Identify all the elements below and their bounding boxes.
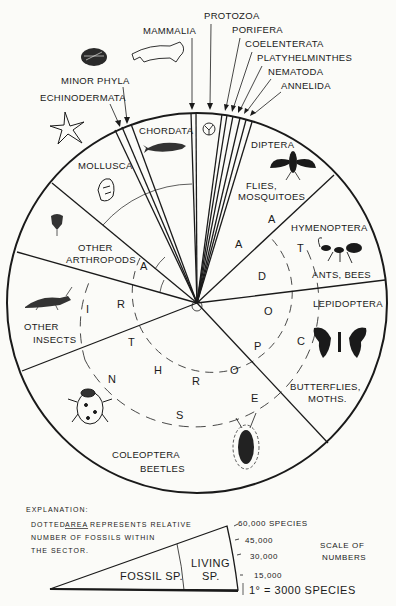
water-beetle-icon: [233, 413, 259, 469]
label-lepidoptera: MOTHS.: [308, 393, 347, 404]
label-platyhelminthes: PLATYHELMINTHES: [257, 52, 352, 63]
label-porifera: PORIFERA: [232, 24, 283, 35]
ring-letter: S: [176, 409, 183, 421]
fish-icon: [143, 143, 186, 153]
ring-letter: H: [154, 364, 162, 376]
cat-icon: [132, 42, 184, 62]
brachiopod-shell-icon: [81, 48, 107, 66]
ring-letter: N: [108, 373, 116, 385]
ring-letter: R: [117, 298, 125, 310]
scale-title: NUMBERS: [322, 553, 366, 562]
scale-fossil-label: FOSSIL SP.: [120, 570, 183, 582]
ring-letter: A: [235, 238, 243, 250]
scale-tick: 15,000: [254, 571, 282, 580]
insecta-ring: [80, 246, 319, 427]
ring-letter: R: [192, 375, 200, 387]
explanation-title: EXPLANATION:: [26, 506, 88, 513]
sector-labels: CHORDATA MOLLUSCA OTHER ARTHROPODS OTHER…: [24, 125, 383, 474]
label-mammalia: MAMMALIA: [143, 25, 196, 36]
ring-arthropoda-letters: A R T H R O P O D A: [117, 238, 273, 387]
label-chordata: CHORDATA: [139, 125, 194, 136]
ant-icon: [318, 238, 362, 263]
ring-letter: E: [251, 392, 258, 404]
label-coelenterata: COELENTERATA: [245, 38, 324, 49]
scale-title: SCALE OF: [320, 541, 364, 550]
label-minor-phyla: MINOR PHYLA: [61, 75, 130, 86]
ring-letter: T: [297, 242, 304, 254]
label-hymenoptera: ANTS, BEES: [312, 269, 371, 280]
scale-living-label: SP.: [202, 570, 220, 582]
snail-shell-icon: [98, 179, 114, 201]
label-echinodermata: ECHINODERMATA: [40, 92, 126, 103]
grasshopper-icon: [25, 287, 72, 310]
scale-unit: 1° = 3000 SPECIES: [249, 584, 356, 596]
trilobite-icon: [51, 214, 63, 236]
ring-letter: T: [128, 336, 135, 348]
explanation-text: THE SECTOR.: [31, 547, 89, 554]
ladybug-icon: [68, 389, 112, 424]
ring-letter: I: [86, 303, 89, 315]
fossil-arcs: [103, 184, 192, 292]
ring-letter: O: [264, 305, 273, 317]
label-other-arthropods: OTHER: [78, 242, 113, 253]
label-lepidoptera: LEPIDOPTERA: [313, 298, 383, 309]
label-other-arthropods: ARTHROPODS: [66, 254, 136, 265]
label-diptera: MOSQUITOES: [238, 191, 305, 202]
explanation-text: DOTTED: [31, 521, 66, 528]
label-coleoptera: COLEOPTERA: [112, 449, 180, 460]
scale-tick: 60,000 SPECIES: [238, 519, 308, 528]
ring-letter: C: [297, 335, 305, 347]
arthropoda-ring: [132, 235, 292, 372]
ring-letter: D: [258, 270, 266, 282]
butterfly-icon: [314, 327, 367, 358]
scale-living-label: LIVING: [191, 557, 230, 569]
label-lepidoptera: BUTTERFLIES,: [290, 381, 361, 392]
label-diptera: FLIES,: [246, 180, 277, 191]
label-diptera: DIPTERA: [251, 139, 295, 150]
label-other-insects: INSECTS: [33, 334, 76, 345]
label-hymenoptera: HYMENOPTERA: [291, 222, 368, 233]
label-coleoptera: BEETLES: [140, 463, 185, 474]
ring-letter: A: [268, 213, 276, 225]
radiolarian-icon: [203, 123, 215, 135]
starfish-icon: [50, 112, 84, 144]
ring-letter: O: [230, 364, 239, 376]
explanation-text: AREA: [65, 521, 88, 528]
scale-tick: 45,000: [245, 536, 273, 545]
label-mollusca: MOLLUSCA: [78, 160, 133, 171]
label-nematoda: NEMATODA: [268, 66, 324, 77]
scale-tick: 30,000: [250, 552, 278, 561]
ring-letter: A: [140, 260, 148, 272]
explanation-text: NUMBER OF FOSSILS WITHIN: [31, 534, 155, 541]
ring-letter: P: [254, 340, 261, 352]
fly-icon: [270, 151, 316, 180]
label-protozoa: PROTOZOA: [204, 10, 260, 21]
explanation-text: REPRESENTS RELATIVE: [90, 521, 192, 528]
species-pie-diagram: A R T H R O P O D A I N S E C T A MAMMAL…: [0, 0, 396, 606]
label-annelida: ANNELIDA: [281, 80, 331, 91]
label-other-insects: OTHER: [24, 321, 59, 332]
